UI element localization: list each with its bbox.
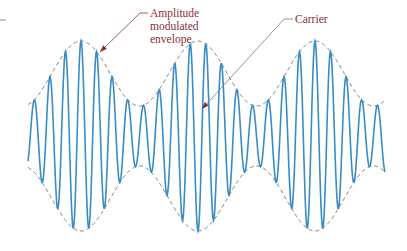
carrier-leader-line — [202, 19, 293, 109]
envelope-annotation: Amplitude modulated envelope — [100, 7, 202, 52]
envelope-label-line-3: envelope — [150, 33, 192, 46]
am-wave-diagram: Amplitude modulated envelope Carrier — [0, 0, 407, 251]
envelope-label-line-1: Amplitude — [150, 7, 199, 20]
carrier-wave — [28, 41, 385, 231]
envelope-label-line-2: modulated — [150, 20, 199, 32]
envelope-lower-dashed-line — [28, 166, 385, 231]
carrier-annotation: Carrier — [202, 13, 328, 109]
carrier-label: Carrier — [295, 13, 328, 25]
envelope-label: Amplitude modulated envelope — [150, 7, 202, 46]
envelope-leader-line — [100, 13, 148, 52]
